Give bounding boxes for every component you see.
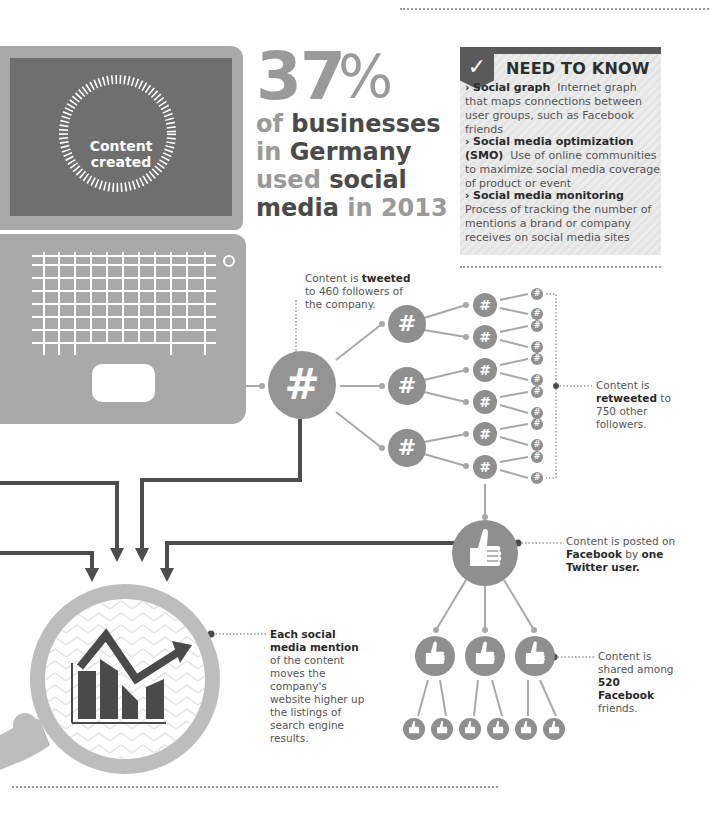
caption-facebook: Content is posted on Facebook by one Twi…	[566, 535, 676, 574]
hashtag-icon: #	[398, 373, 416, 398]
main-hashtag-node: #	[268, 351, 336, 419]
hashtag-icon: #	[284, 360, 319, 409]
hashtag-icon: #	[479, 329, 491, 345]
hashtag-node-small: #	[531, 472, 543, 484]
hashtag-node: #	[473, 390, 497, 414]
thumbs-up-icon	[403, 718, 425, 740]
thumbs-up-icon	[543, 718, 565, 740]
thumbs-up-icon	[487, 718, 509, 740]
hashtag-icon: #	[479, 362, 491, 378]
hashtag-node-small: #	[531, 418, 543, 430]
hashtag-node-small: #	[531, 374, 543, 386]
hashtag-node: #	[473, 325, 497, 349]
magnifying-glass-icon	[0, 575, 230, 785]
facebook-like-node	[452, 520, 518, 586]
facebook-like-node-small	[431, 718, 453, 740]
hashtag-node: #	[388, 367, 426, 405]
hashtag-node-small: #	[531, 386, 543, 398]
thumbs-up-icon	[431, 718, 453, 740]
hashtag-node: #	[473, 455, 497, 479]
thumbs-up-icon	[515, 718, 537, 740]
hashtag-icon: #	[479, 426, 491, 442]
hashtag-node-small: #	[531, 353, 543, 365]
facebook-like-node	[415, 636, 455, 676]
caption-retweeted: Content is retweeted to 750 other follow…	[596, 379, 676, 431]
caption-seo: Each social media mention of the content…	[270, 628, 366, 745]
hashtag-node: #	[473, 358, 497, 382]
hashtag-icon: #	[479, 394, 491, 410]
hashtag-icon: #	[479, 297, 491, 313]
hashtag-node-small: #	[531, 320, 543, 332]
caption-tweeted: Content is tweeted to 460 followers of t…	[305, 272, 415, 311]
hashtag-node: #	[388, 429, 426, 467]
hashtag-icon: #	[398, 435, 416, 460]
hashtag-node: #	[473, 293, 497, 317]
hashtag-node-small: #	[531, 451, 543, 463]
hashtag-node-small: #	[531, 341, 543, 353]
hashtag-node-small: #	[531, 288, 543, 300]
bottom-divider	[12, 786, 498, 788]
facebook-like-node-small	[487, 718, 509, 740]
facebook-like-node	[465, 636, 505, 676]
caption-shared: Content is shared among 520 Facebook fri…	[598, 650, 678, 715]
hashtag-icon: #	[479, 459, 491, 475]
hashtag-node-small: #	[531, 308, 543, 320]
thumbs-up-icon	[415, 636, 455, 676]
thumbs-up-icon	[452, 520, 518, 586]
facebook-like-node-small	[515, 718, 537, 740]
hashtag-node: #	[473, 422, 497, 446]
thumbs-up-icon	[465, 636, 505, 676]
thumbs-up-icon	[459, 718, 481, 740]
hashtag-icon: #	[398, 311, 416, 336]
thumbs-up-icon	[515, 636, 555, 676]
facebook-like-node-small	[403, 718, 425, 740]
hashtag-node-small: #	[531, 439, 543, 451]
facebook-like-node-small	[459, 718, 481, 740]
facebook-like-node	[515, 636, 555, 676]
facebook-like-node-small	[543, 718, 565, 740]
